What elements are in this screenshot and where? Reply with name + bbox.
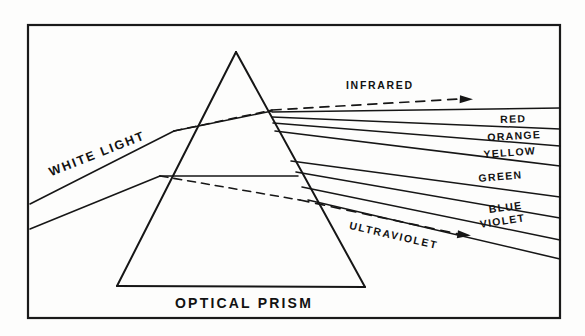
infrared-ray (272, 95, 473, 110)
label-infrared: INFRARED (346, 79, 414, 91)
optical-prism-figure: INFRARED ULTRAVIOLET WHITE LIGHT RED ORA… (0, 0, 585, 336)
label-red: RED (500, 112, 526, 125)
figure-caption: OPTICAL PRISM (175, 295, 313, 311)
prism-diagram-canvas (0, 0, 585, 336)
prism-triangle (117, 52, 365, 287)
